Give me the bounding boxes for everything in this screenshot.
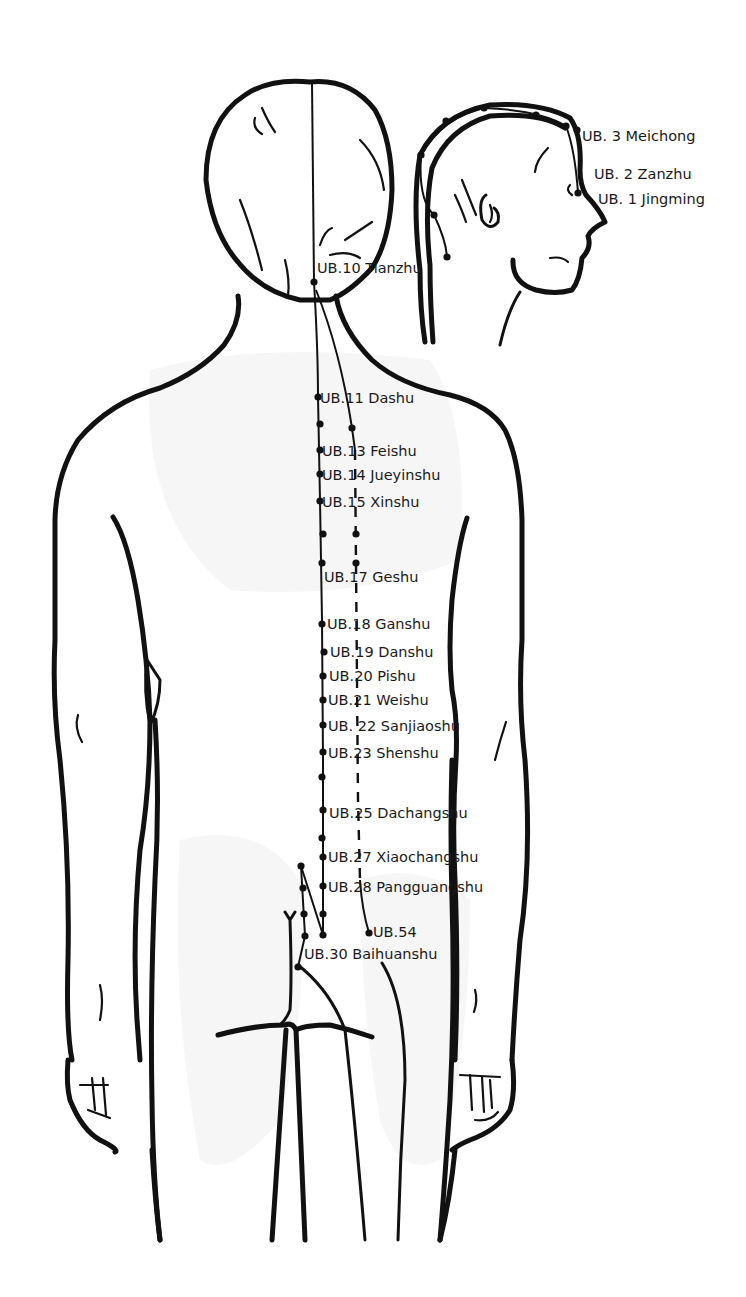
point-ub10-icon bbox=[310, 278, 317, 285]
label-ub3: UB. 3 Meichong bbox=[582, 128, 696, 144]
point-sacral-line-icon bbox=[297, 862, 304, 869]
point-ub1-icon bbox=[574, 189, 581, 196]
point-inner-line-icon bbox=[319, 530, 326, 537]
label-ub14: UB.14 Jueyinshu bbox=[322, 467, 440, 483]
point-inner-line-icon bbox=[319, 931, 326, 938]
point-ub22-icon bbox=[319, 721, 326, 728]
label-ub23: UB.23 Shenshu bbox=[328, 745, 439, 761]
label-ub22: UB. 22 Sanjiaoshu bbox=[328, 718, 460, 734]
label-ub11: UB.11 Dashu bbox=[320, 390, 414, 406]
label-ub18: UB.18 Ganshu bbox=[327, 616, 430, 632]
side-head bbox=[416, 105, 605, 345]
label-ub20: UB.20 Pishu bbox=[329, 668, 416, 684]
ub-meridian-diagram: UB. 3 MeichongUB. 2 ZanzhuUB. 1 Jingming… bbox=[0, 0, 746, 1297]
point-ub54-icon bbox=[365, 929, 372, 936]
point-sacral-line-icon bbox=[300, 910, 307, 917]
label-ub25: UB.25 Dachangshu bbox=[329, 805, 468, 821]
point-ub3-icon bbox=[573, 126, 580, 133]
label-ub1: UB. 1 Jingming bbox=[598, 191, 705, 207]
label-ub2: UB. 2 Zanzhu bbox=[594, 166, 692, 182]
label-ub13: UB.13 Feishu bbox=[322, 443, 417, 459]
point-ub27-icon bbox=[319, 853, 326, 860]
point-ub18-icon bbox=[318, 620, 325, 627]
point-inner-line-icon bbox=[316, 420, 323, 427]
point-sacral-line-icon bbox=[299, 884, 306, 891]
point-ub23-icon bbox=[319, 748, 326, 755]
point-inner-line-icon bbox=[318, 834, 325, 841]
label-ub19: UB.19 Danshu bbox=[330, 644, 433, 660]
label-ub17: UB.17 Geshu bbox=[324, 569, 418, 585]
point-ub20-icon bbox=[319, 672, 326, 679]
point-inner-line-icon bbox=[319, 910, 326, 917]
point-ub25-icon bbox=[319, 806, 326, 813]
point-head-line-icon bbox=[430, 211, 437, 218]
point-head-line-icon bbox=[532, 111, 539, 118]
label-ub10: UB.10 Tianzhu bbox=[317, 260, 422, 276]
point-head-line-icon bbox=[417, 151, 424, 158]
label-ub54: UB.54 bbox=[373, 924, 417, 940]
point-head-line-icon bbox=[443, 253, 450, 260]
label-ub28: UB.28 Pangguangshu bbox=[328, 879, 483, 895]
point-ub30-icon bbox=[294, 963, 301, 970]
point-sacral-line-icon bbox=[301, 932, 308, 939]
point-ub19-icon bbox=[320, 648, 327, 655]
label-ub30: UB.30 Baihuanshu bbox=[304, 946, 437, 962]
point-head-line-icon bbox=[480, 104, 487, 111]
point-head-line-icon bbox=[442, 117, 449, 124]
point-ub28-icon bbox=[319, 882, 326, 889]
label-ub15: UB.15 Xinshu bbox=[322, 494, 419, 510]
point-outer-line-icon bbox=[352, 530, 359, 537]
point-inner-line-icon bbox=[318, 773, 325, 780]
point-ub21-icon bbox=[319, 696, 326, 703]
point-outer-line-icon bbox=[348, 424, 355, 431]
point-head-line-icon bbox=[562, 122, 569, 129]
label-ub21: UB.21 Weishu bbox=[328, 692, 429, 708]
point-ub17-icon bbox=[318, 559, 325, 566]
point-outer-line-icon bbox=[352, 559, 359, 566]
left-hand bbox=[67, 985, 116, 1152]
label-ub27: UB.27 Xiaochangshu bbox=[328, 849, 478, 865]
